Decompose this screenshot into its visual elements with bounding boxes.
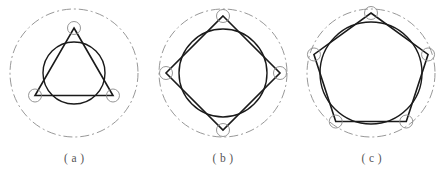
- caption-row: ( a ) ( b ) ( c ): [0, 144, 446, 172]
- caption-panel-a: ( a ): [0, 144, 149, 172]
- polygon-square: [166, 16, 280, 130]
- polygon-triangle: [35, 28, 113, 96]
- panel-a-group: [10, 9, 138, 137]
- panel-c-group: [307, 7, 435, 138]
- figure-root: ( a ) ( b ) ( c ): [0, 0, 446, 172]
- caption-panel-c: ( c ): [297, 144, 446, 172]
- inner-circle-square: [179, 29, 267, 117]
- inner-circle-pentagon: [320, 22, 422, 124]
- outer-pitch-circle-pentagon: [307, 9, 435, 137]
- panel-b-group: [159, 9, 287, 137]
- caption-panel-b: ( b ): [149, 144, 298, 172]
- outer-pitch-circle-square: [159, 9, 287, 137]
